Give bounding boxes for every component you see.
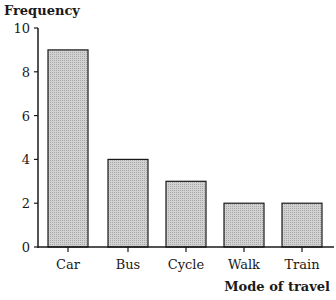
bar-walk	[224, 203, 264, 247]
y-tick-label: 6	[22, 109, 30, 124]
y-tick-label: 0	[22, 240, 30, 255]
x-axis: CarBusCycleWalkTrain	[38, 247, 334, 272]
bar-cycle	[166, 181, 206, 247]
y-tick-label: 2	[22, 196, 30, 211]
y-tick-label: 4	[22, 152, 30, 167]
bar-bus	[108, 159, 148, 247]
bars	[48, 50, 322, 247]
bar-train	[282, 203, 322, 247]
x-tick-label: Cycle	[168, 257, 205, 272]
x-tick-label: Walk	[228, 257, 260, 272]
bar-chart: 0246810 CarBusCycleWalkTrain	[0, 0, 336, 300]
y-axis: 0246810	[13, 21, 38, 255]
bar-car	[48, 50, 88, 247]
x-tick-label: Train	[284, 257, 320, 272]
y-tick-label: 8	[22, 65, 30, 80]
x-tick-label: Car	[56, 257, 81, 272]
x-tick-label: Bus	[116, 257, 141, 272]
y-tick-label: 10	[13, 21, 30, 36]
